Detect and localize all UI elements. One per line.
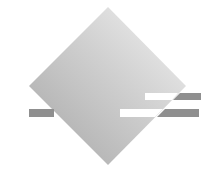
lower-right-stripe-gray — [157, 109, 199, 117]
logo-graphic — [0, 0, 203, 183]
left-stripe — [29, 109, 54, 117]
diamond-shape — [29, 7, 186, 165]
